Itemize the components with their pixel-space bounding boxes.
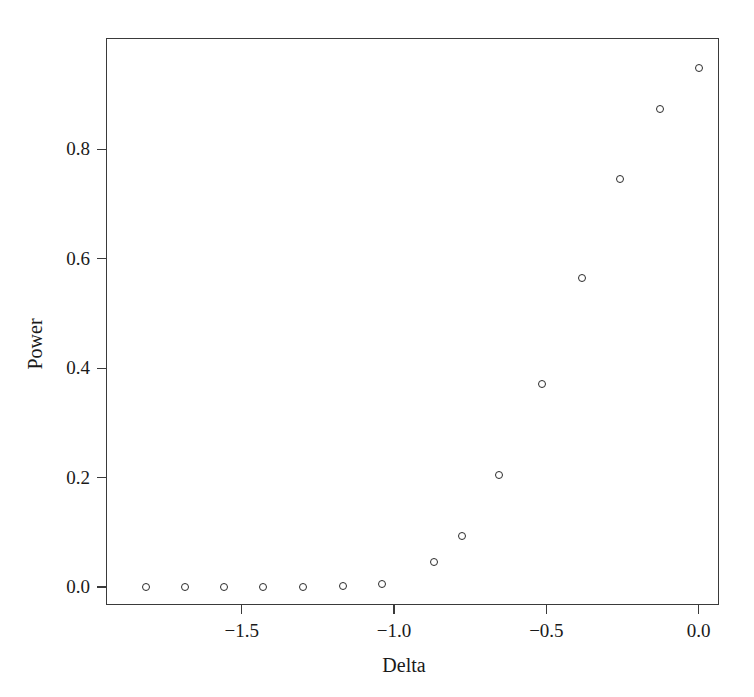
x-tick-label: 0.0 — [659, 620, 739, 642]
y-tick-mark — [97, 368, 106, 369]
x-tick-label: −1.5 — [202, 620, 282, 642]
y-axis-title: Power — [11, 320, 35, 344]
x-tick-mark — [698, 605, 699, 614]
x-axis-title: Delta — [0, 654, 754, 677]
y-tick-label-text: 0.6 — [30, 249, 90, 268]
x-axis-title-text: Delta — [382, 654, 425, 677]
y-tick-label: 0.8 — [22, 139, 90, 158]
x-tick-mark — [393, 605, 394, 614]
y-tick-mark — [97, 258, 106, 259]
y-axis-title-text: Power — [23, 318, 47, 369]
y-tick-label-text: 0.8 — [30, 139, 90, 158]
power-curve-figure: 0.00.20.40.60.8 −1.5−1.0−0.50.0 Power De… — [0, 0, 754, 697]
y-tick-label: 0.6 — [22, 249, 90, 268]
y-tick-label-text: 0.0 — [30, 577, 90, 596]
y-tick-label: 0.0 — [22, 577, 90, 596]
x-tick-label: −0.5 — [506, 620, 586, 642]
x-tick-mark — [241, 605, 242, 614]
y-tick-label: 0.2 — [22, 468, 90, 487]
y-tick-label-text: 0.2 — [30, 468, 90, 487]
y-tick-mark — [97, 477, 106, 478]
y-tick-mark — [97, 586, 106, 587]
y-tick-mark — [97, 149, 106, 150]
plot-area-frame — [106, 38, 719, 605]
x-tick-mark — [546, 605, 547, 614]
x-tick-label: −1.0 — [354, 620, 434, 642]
